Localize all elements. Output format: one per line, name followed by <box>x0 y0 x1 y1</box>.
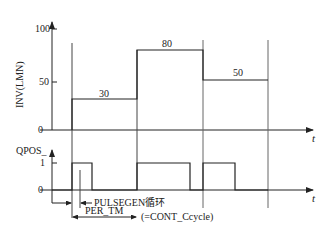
lower-y-axis <box>52 150 57 200</box>
cont-ccycle-label: (=CONT_Ccycle) <box>141 212 213 222</box>
y-tick-0: 0 <box>38 125 43 135</box>
y-tick-1: 1 <box>40 158 45 168</box>
per-tm-label: PER_TM <box>85 206 123 216</box>
lower-t-label: t <box>312 193 315 204</box>
qpos-waveform <box>52 163 268 190</box>
y-tick-100: 100 <box>35 24 50 34</box>
qpos-axis-label: QPOS_ <box>16 146 47 156</box>
y-tick-0-lower: 0 <box>38 185 43 195</box>
y-tick-50: 50 <box>39 77 49 87</box>
upper-y-axis <box>52 22 57 130</box>
segment-label-80: 80 <box>162 39 172 49</box>
upper-t-label: t <box>312 133 315 144</box>
segment-label-30: 30 <box>99 89 109 99</box>
inv-axis-label: INV(LMN) <box>14 61 25 108</box>
segment-label-50: 50 <box>233 68 243 78</box>
